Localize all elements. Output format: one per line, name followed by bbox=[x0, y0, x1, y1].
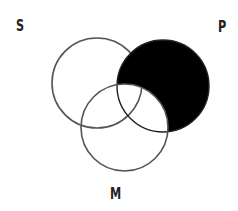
venn-diagram bbox=[0, 0, 238, 211]
